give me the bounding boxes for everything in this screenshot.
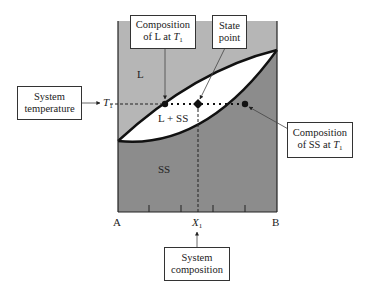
callout-state-point: State point [212,15,247,49]
solid-composition-point [242,101,248,107]
region-label-liquid: L [137,68,144,80]
liquid-composition-point [162,101,168,107]
axis-label-a: A [113,216,121,228]
region-label-two-phase: L + SS [158,112,188,124]
callout-system-composition: System composition [164,247,230,281]
axis-label-x1: X1 [192,216,202,230]
callout-composition-of-ss: Composition of SS at T1 [287,122,353,158]
region-label-solid: SS [158,163,170,175]
callout-composition-of-l: Composition of L at T1 [130,15,196,49]
callout-system-temperature: System temperature [17,86,82,120]
axis-label-t1: T1 [103,96,113,110]
axis-label-b: B [272,216,279,228]
